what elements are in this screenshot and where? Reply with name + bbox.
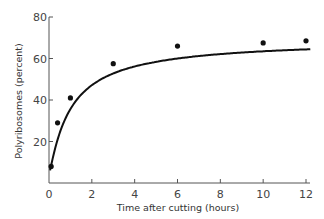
x-tick-label: 0 — [46, 188, 53, 201]
chart: 024681012 20406080 Time after cutting (h… — [0, 0, 324, 219]
x-tick-label: 10 — [256, 188, 270, 201]
y-axis-label: Polyribosomes (percent) — [13, 43, 24, 158]
data-point — [175, 43, 180, 48]
y-tick-label: 80 — [33, 11, 47, 24]
data-point — [303, 38, 308, 43]
y-ticks: 20406080 — [33, 11, 53, 149]
y-tick-label: 40 — [33, 94, 47, 107]
x-tick-label: 12 — [299, 188, 313, 201]
x-axis-label: Time after cutting (hours) — [116, 202, 239, 213]
x-tick-label: 2 — [88, 188, 95, 201]
data-point — [111, 61, 116, 66]
data-point — [261, 40, 266, 45]
data-point — [68, 95, 73, 100]
data-point — [49, 164, 54, 169]
x-ticks: 024681012 — [46, 179, 314, 201]
y-tick-label: 60 — [33, 53, 47, 66]
x-tick-label: 8 — [217, 188, 224, 201]
fit-curve — [50, 49, 310, 170]
x-tick-label: 4 — [131, 188, 138, 201]
x-tick-label: 6 — [174, 188, 181, 201]
y-tick-label: 20 — [33, 136, 47, 149]
data-point — [55, 120, 60, 125]
